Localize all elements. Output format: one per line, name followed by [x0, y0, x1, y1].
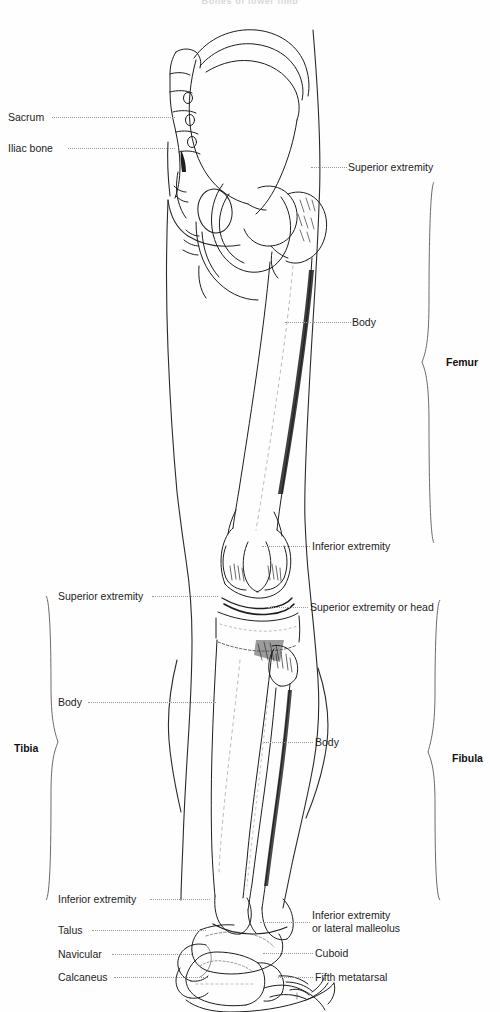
label-fifth-metatarsal: Fifth metatarsal [315, 971, 387, 984]
foot-group [176, 924, 335, 1012]
label-line-2: or lateral malleolus [312, 922, 400, 934]
leader-fifth-metatarsal [278, 977, 313, 978]
label-femur-superior-extremity: Superior extremity [348, 161, 433, 174]
leader-calcaneus [114, 977, 208, 978]
label-talus: Talus [58, 924, 83, 937]
leader-femur-inferior-extremity [262, 546, 310, 547]
label-sacrum: Sacrum [8, 111, 44, 124]
leader-fibula-superior-extremity-or-head [268, 607, 308, 608]
limb-silhouette [167, 30, 328, 908]
leader-cuboid [263, 953, 313, 954]
label-navicular: Navicular [58, 948, 102, 961]
brace-fibula [428, 600, 440, 900]
label-tibia-body: Body [58, 696, 82, 709]
leader-talus [92, 930, 206, 931]
figure-page: Bones of lower limb [0, 0, 500, 1012]
label-line-1: Inferior extremity [312, 909, 390, 921]
brace-femur [422, 182, 434, 543]
brace-label-tibia: Tibia [14, 742, 38, 754]
leader-femur-body [285, 322, 351, 323]
brace-label-femur: Femur [446, 356, 478, 368]
pelvis-group [170, 30, 309, 300]
label-femur-inferior-extremity: Inferior extremity [312, 540, 390, 553]
leader-tibia-body [88, 702, 216, 703]
leader-iliac-bone [68, 148, 175, 149]
leader-fibula-inferior-extremity [260, 922, 310, 923]
label-cuboid: Cuboid [315, 947, 348, 960]
label-iliac-bone: Iliac bone [8, 142, 53, 155]
leader-fibula-body [264, 742, 313, 743]
brace-tibia [46, 596, 58, 900]
label-tibia-inferior-extremity: Inferior extremity [58, 893, 136, 906]
leader-tibia-superior-extremity [152, 596, 218, 597]
leader-sacrum [52, 117, 175, 118]
label-femur-body: Body [352, 316, 376, 329]
leader-tibia-inferior-extremity [150, 899, 210, 900]
brace-label-fibula: Fibula [452, 752, 483, 764]
label-fibula-superior-extremity-or-head: Superior extremity or head [310, 601, 434, 614]
leader-navicular [112, 954, 192, 955]
label-tibia-superior-extremity: Superior extremity [58, 590, 143, 603]
label-fibula-body: Body [315, 736, 339, 749]
label-calcaneus: Calcaneus [58, 971, 108, 984]
femur-group [221, 186, 327, 598]
label-fibula-inferior-extremity-or-lateral-malleolus: Inferior extremity or lateral malleolus [312, 909, 442, 934]
leader-femur-superior-extremity [311, 167, 347, 168]
anatomical-illustration [0, 0, 500, 1012]
